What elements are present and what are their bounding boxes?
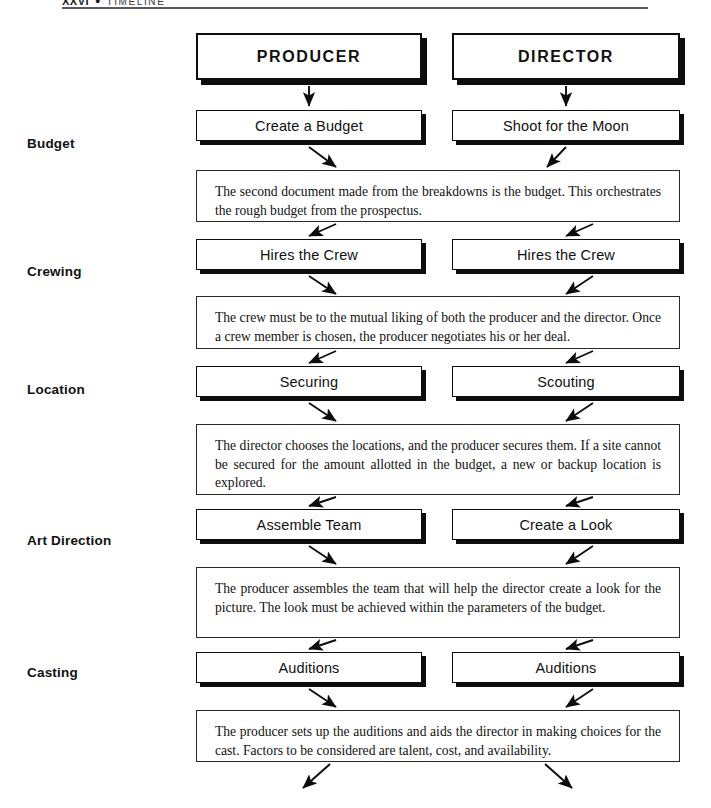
description-box-casting: The producer sets up the auditions and a… — [196, 710, 680, 762]
description-box-art-direction: The producer assembles the team that wil… — [196, 567, 680, 638]
arrow-desc-art-direction-to-producer-casting — [309, 640, 336, 649]
action-box-producer-casting: Auditions — [196, 652, 422, 683]
arrow-producer-budget-to-desc — [309, 147, 336, 167]
action-label-director-budget: Shoot for the Moon — [503, 118, 629, 134]
action-label-producer-casting: Auditions — [279, 660, 340, 676]
action-box-producer-crewing: Hires the Crew — [196, 239, 422, 270]
description-text-location: The director chooses the locations, and … — [215, 437, 661, 493]
action-box-producer-location: Securing — [196, 366, 422, 397]
action-box-director-location: Scouting — [452, 366, 680, 397]
stage-label-casting: Casting — [27, 665, 78, 680]
arrow-director-casting-to-desc — [566, 689, 593, 707]
description-text-budget: The second document made from the breakd… — [215, 183, 661, 220]
action-box-director-budget: Shoot for the Moon — [452, 110, 680, 141]
column-header-director-label: DIRECTOR — [518, 48, 614, 66]
action-label-director-art-direction: Create a Look — [519, 517, 612, 533]
description-box-crewing: The crew must be to the mutual liking of… — [196, 296, 680, 349]
action-label-producer-art-direction: Assemble Team — [257, 517, 362, 533]
action-box-producer-art-direction: Assemble Team — [196, 509, 422, 540]
stage-label-art-direction: Art Direction — [27, 533, 111, 548]
arrow-director-art-direction-to-desc — [566, 546, 593, 564]
stage-label-budget: Budget — [27, 136, 75, 151]
arrow-desc-casting-continues-producer — [303, 764, 330, 788]
column-header-producer: PRODUCER — [196, 33, 422, 80]
action-box-director-casting: Auditions — [452, 652, 680, 683]
description-box-location: The director chooses the locations, and … — [196, 424, 680, 495]
action-label-director-crewing: Hires the Crew — [517, 247, 615, 263]
action-label-producer-crewing: Hires the Crew — [260, 247, 358, 263]
action-label-producer-location: Securing — [280, 374, 338, 390]
arrow-producer-art-direction-to-desc — [309, 546, 336, 564]
description-text-casting: The producer sets up the auditions and a… — [215, 723, 661, 760]
stage-label-crewing: Crewing — [27, 264, 82, 279]
description-box-budget: The second document made from the breakd… — [196, 170, 680, 222]
column-header-producer-label: PRODUCER — [257, 48, 361, 66]
timeline-flowchart: PRODUCER DIRECTOR Budget Crewing Locatio… — [0, 0, 711, 808]
action-label-director-location: Scouting — [537, 374, 595, 390]
arrow-producer-location-to-desc — [309, 403, 336, 421]
description-text-art-direction: The producer assembles the team that wil… — [215, 580, 661, 617]
arrow-desc-budget-to-producer-crewing — [309, 224, 336, 236]
arrow-director-crewing-to-desc — [566, 276, 593, 294]
stage-label-location: Location — [27, 382, 85, 397]
action-box-director-art-direction: Create a Look — [452, 509, 680, 540]
arrow-producer-crewing-to-desc — [309, 276, 336, 294]
action-label-producer-budget: Create a Budget — [255, 118, 363, 134]
arrow-producer-casting-to-desc — [309, 689, 336, 707]
arrow-desc-crewing-to-director-location — [566, 351, 593, 363]
arrow-desc-location-to-director-art-direction — [566, 497, 593, 506]
column-header-director: DIRECTOR — [452, 33, 680, 80]
arrow-desc-budget-to-director-crewing — [566, 224, 593, 236]
arrow-desc-crewing-to-producer-location — [309, 351, 336, 363]
description-text-crewing: The crew must be to the mutual liking of… — [215, 309, 661, 346]
arrow-desc-casting-continues-director — [545, 764, 572, 788]
action-box-director-crewing: Hires the Crew — [452, 239, 680, 270]
arrow-director-location-to-desc — [566, 403, 593, 421]
action-box-producer-budget: Create a Budget — [196, 110, 422, 141]
action-label-director-casting: Auditions — [536, 660, 597, 676]
arrow-desc-location-to-producer-art-direction — [309, 497, 336, 506]
arrow-director-budget-to-desc — [547, 147, 566, 167]
arrow-desc-art-direction-to-director-casting — [566, 640, 593, 649]
